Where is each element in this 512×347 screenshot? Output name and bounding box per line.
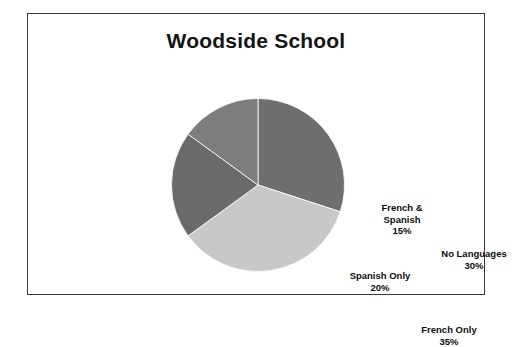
pie-chart-svg <box>171 98 345 272</box>
pie-chart: No Languages 30% French Only 35% Spanish… <box>171 98 345 272</box>
pie-label-spanish-only-text: Spanish Only <box>350 270 411 281</box>
pie-label-no-languages: No Languages 30% <box>426 248 512 271</box>
pie-label-spanish-only: Spanish Only 20% <box>334 270 426 293</box>
pie-label-french-and-spanish-line1: French & <box>381 202 422 213</box>
pie-label-french-only: French Only 35% <box>401 324 497 347</box>
pie-slice-group <box>172 99 345 272</box>
pie-label-no-languages-percent: 30% <box>426 260 512 272</box>
pie-label-french-and-spanish-line2: Spanish <box>366 214 438 226</box>
pie-label-french-and-spanish: French & Spanish 15% <box>366 202 438 237</box>
pie-label-spanish-only-percent: 20% <box>334 282 426 294</box>
pie-label-no-languages-text: No Languages <box>441 248 506 259</box>
pie-label-french-only-percent: 35% <box>401 336 497 347</box>
pie-label-french-only-text: French Only <box>421 324 476 335</box>
pie-label-french-and-spanish-percent: 15% <box>366 225 438 237</box>
page-title: Woodside School <box>27 29 485 53</box>
